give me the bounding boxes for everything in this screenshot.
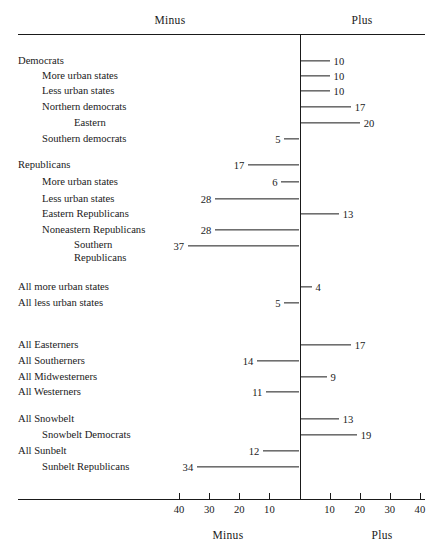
value-bar — [266, 391, 299, 392]
header-label-plus: Plus — [351, 14, 372, 26]
axis-tick — [239, 493, 240, 499]
value-label: 13 — [343, 414, 354, 425]
value-label: 17 — [355, 340, 366, 351]
value-label: 17 — [234, 160, 245, 171]
value-bar — [281, 181, 299, 182]
row-label: Sunbelt Republicans — [42, 461, 129, 474]
value-bar — [300, 213, 339, 214]
value-label: 28 — [201, 194, 212, 205]
value-bar — [300, 376, 327, 377]
row-label: All more urban states — [18, 281, 109, 294]
row-label: All Midwesterners — [18, 371, 97, 384]
row-label: Southern democrats — [42, 133, 126, 146]
row-label: More urban states — [42, 176, 118, 189]
row-label: All Easterners — [18, 339, 78, 352]
value-label: 12 — [249, 446, 260, 457]
axis-tick — [420, 493, 421, 499]
value-bar — [300, 286, 312, 287]
value-label: 10 — [334, 71, 345, 82]
value-bar — [215, 198, 299, 199]
value-bar — [300, 60, 330, 61]
axis-tick-label: 30 — [204, 504, 215, 515]
value-label: 34 — [183, 462, 194, 473]
value-bar — [284, 138, 299, 139]
row-label: All Westerners — [18, 386, 81, 399]
value-bar — [197, 466, 299, 467]
value-label: 13 — [343, 209, 354, 220]
value-label: 14 — [243, 356, 254, 367]
row-label: Eastern Republicans — [42, 208, 129, 221]
axis-tick-label: 20 — [234, 504, 245, 515]
axis-tick-label: 20 — [354, 504, 365, 515]
axis-tick-label: 40 — [174, 504, 185, 515]
value-bar — [300, 122, 360, 123]
value-bar — [263, 450, 299, 451]
footer-label-minus: Minus — [213, 529, 244, 541]
row-label: Noneastern Republicans — [42, 224, 145, 237]
row-label: Republicans — [18, 159, 70, 172]
axis-tick — [330, 493, 331, 499]
row-label: More urban states — [42, 70, 118, 83]
axis-tick-label: 40 — [415, 504, 426, 515]
row-label-line2: Republicans — [74, 251, 126, 262]
footer-label-plus: Plus — [371, 529, 392, 541]
value-bar — [257, 360, 299, 361]
row-label: Democrats — [18, 55, 64, 68]
value-label: 19 — [361, 430, 372, 441]
slopechart-canvas: Minus Plus Democrats10More urban states1… — [0, 0, 440, 552]
value-label: 10 — [334, 56, 345, 67]
value-bar — [300, 90, 330, 91]
bottom-axis-rule — [18, 499, 425, 500]
value-label: 17 — [355, 102, 366, 113]
axis-tick-label: 10 — [324, 504, 335, 515]
axis-tick — [179, 493, 180, 499]
value-bar — [188, 245, 299, 246]
axis-tick — [360, 493, 361, 499]
value-bar — [300, 418, 339, 419]
row-label: Eastern — [74, 117, 106, 130]
axis-tick-label: 10 — [264, 504, 275, 515]
value-bar — [284, 302, 299, 303]
top-rule — [18, 34, 425, 35]
value-label: 28 — [201, 225, 212, 236]
row-label: Northern democrats — [42, 101, 126, 114]
value-label: 5 — [275, 298, 280, 309]
value-label: 20 — [364, 118, 375, 129]
value-bar — [215, 229, 299, 230]
value-label: 9 — [331, 372, 336, 383]
axis-tick — [390, 493, 391, 499]
axis-tick — [209, 493, 210, 499]
row-label: All Snowbelt — [18, 413, 74, 426]
value-label: 37 — [174, 241, 185, 252]
row-label: Snowbelt Democrats — [42, 429, 131, 442]
value-label: 11 — [252, 387, 262, 398]
header-label-minus: Minus — [155, 14, 186, 26]
zero-axis-line — [300, 34, 301, 500]
row-label: All Sunbelt — [18, 445, 67, 458]
value-bar — [300, 434, 357, 435]
row-label: All Southerners — [18, 355, 85, 368]
row-label: All less urban states — [18, 297, 103, 310]
value-bar — [300, 75, 330, 76]
value-label: 10 — [334, 86, 345, 97]
axis-tick-label: 30 — [385, 504, 396, 515]
value-label: 4 — [316, 282, 321, 293]
row-label: SouthernRepublicans — [74, 239, 126, 264]
value-label: 6 — [272, 177, 277, 188]
value-bar — [248, 164, 299, 165]
row-label: Less urban states — [42, 193, 114, 206]
value-label: 5 — [275, 134, 280, 145]
row-label: Less urban states — [42, 85, 114, 98]
value-bar — [300, 344, 351, 345]
value-bar — [300, 106, 351, 107]
axis-tick — [269, 493, 270, 499]
